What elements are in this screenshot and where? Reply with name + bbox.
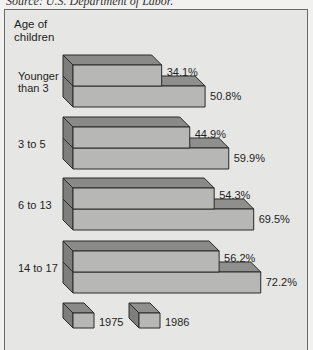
bar-1975-3-front-face (73, 251, 219, 272)
legend-swatch-1986-front-face (139, 313, 160, 328)
data-label-1986: 69.5% (259, 213, 290, 225)
bar-1986-1-front-face (73, 148, 229, 169)
legend-label-1986: 1986 (165, 316, 189, 328)
data-label-1986: 72.2% (266, 276, 297, 288)
data-label-1975: 34.1% (167, 66, 198, 78)
bar-1975-1-top-face (63, 117, 190, 127)
bar-1975-2-top-face (63, 178, 214, 188)
bar-1986-3-front-face (73, 272, 261, 293)
data-label-1986: 50.8% (210, 90, 241, 102)
data-label-1975: 56.2% (224, 252, 255, 264)
bar-1986-0-front-face (73, 86, 205, 107)
bar-1975-0-top-face (63, 55, 162, 65)
bar-1975-1-front-face (73, 127, 190, 148)
bar-1975-2-front-face (73, 188, 214, 209)
bar-1975-3-top-face (63, 241, 219, 251)
data-label-1975: 44.9% (195, 128, 226, 140)
data-label-1986: 59.9% (234, 152, 265, 164)
bar-1975-0-front-face (73, 65, 162, 86)
legend-swatch-1975-front-face (73, 313, 94, 328)
bar-1986-2-front-face (73, 209, 254, 230)
legend-label-1975: 1975 (99, 316, 123, 328)
data-label-1975: 54.3% (219, 189, 250, 201)
